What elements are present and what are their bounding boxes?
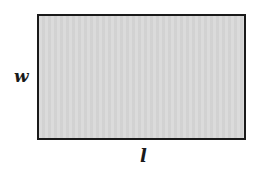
length-label: l — [140, 147, 147, 165]
width-label: w — [14, 68, 29, 85]
rectangle-shape — [37, 14, 246, 140]
